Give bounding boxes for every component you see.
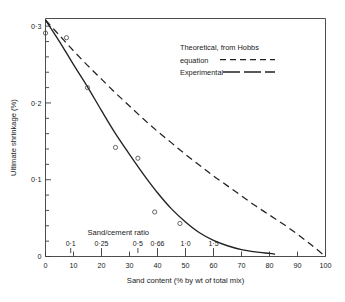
secondary-tick-label: 0·1 [66,240,76,247]
x-tick-label: 60 [210,261,218,270]
y-tick-label: 0 [38,252,42,261]
x-tick-label: 30 [126,261,134,270]
x-tick-label: 70 [238,261,246,270]
secondary-tick-label: 0·66 [150,240,164,247]
data-point-marker [178,221,182,225]
data-point-marker [113,145,117,149]
plot-frame [46,19,326,257]
x-tick-label: 50 [182,261,190,270]
x-axis-tick-labels: 0102030405060708090100 [44,261,332,270]
secondary-axis-ticks [71,248,214,253]
legend-item-experimental-label: Experimental [180,68,223,77]
x-tick-label: 40 [154,261,162,270]
x-tick-label: 20 [98,261,106,270]
data-point-marker [153,210,157,214]
y-tick-label: 0·2 [31,99,41,108]
legend-item-theoretical-line2: equation [180,56,208,65]
y-axis-ticks [46,26,52,256]
x-tick-label: 0 [44,261,48,270]
y-tick-label: 0·1 [31,175,41,184]
x-tick-label: 80 [266,261,274,270]
secondary-tick-label: 0·5 [133,240,143,247]
y-tick-label: 0·3 [31,22,41,31]
x-axis-title: Sand content (% by wt of total mix) [127,276,245,285]
y-axis-title: Ultimate shrinkage (%) [9,99,18,176]
secondary-tick-label: 0·25 [94,240,108,247]
x-tick-label: 10 [70,261,78,270]
series-experimental [46,20,276,254]
chart-figure: 00·10·20·3 0102030405060708090100 0·10·2… [0,0,345,302]
legend-item-theoretical-line1: Theoretical, from Hobbs [180,43,259,52]
data-point-marker [64,36,68,40]
secondary-axis-tick-labels: 0·10·250·50·661·01·5 [66,240,219,247]
x-tick-label: 100 [320,261,332,270]
secondary-axis-title: Sand/cement ratio [87,228,149,237]
y-axis-tick-labels: 00·10·20·3 [31,22,41,261]
x-tick-label: 90 [294,261,302,270]
legend: Theoretical, from Hobbs equation Experim… [180,43,275,77]
data-point-marker [136,156,140,160]
secondary-tick-label: 1·0 [180,240,190,247]
chart-canvas: 00·10·20·3 0102030405060708090100 0·10·2… [0,0,345,302]
